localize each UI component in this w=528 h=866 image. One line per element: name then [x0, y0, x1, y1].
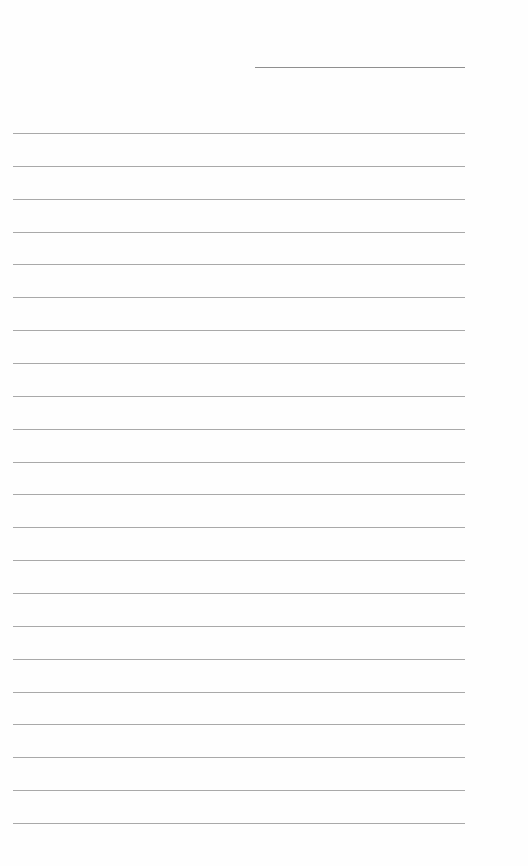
- ruled-line: [13, 823, 465, 824]
- ruled-line: [13, 199, 465, 200]
- ruled-line: [13, 133, 465, 134]
- ruled-line: [13, 626, 465, 627]
- ruled-line: [13, 297, 465, 298]
- header-field-text: [255, 50, 465, 66]
- ruled-line: [13, 494, 465, 495]
- ruled-line: [13, 396, 465, 397]
- ruled-line: [13, 692, 465, 693]
- ruled-line: [13, 330, 465, 331]
- lined-paper-page: [0, 0, 528, 866]
- ruled-line: [13, 593, 465, 594]
- ruled-line: [13, 429, 465, 430]
- ruled-line: [13, 527, 465, 528]
- ruled-line: [13, 757, 465, 758]
- ruled-line: [13, 790, 465, 791]
- ruled-line: [13, 560, 465, 561]
- ruled-line: [13, 462, 465, 463]
- ruled-line: [13, 659, 465, 660]
- ruled-line: [13, 724, 465, 725]
- ruled-line: [13, 232, 465, 233]
- ruled-line: [13, 264, 465, 265]
- ruled-line: [13, 363, 465, 364]
- ruled-line: [13, 166, 465, 167]
- header-date-line: [255, 67, 465, 68]
